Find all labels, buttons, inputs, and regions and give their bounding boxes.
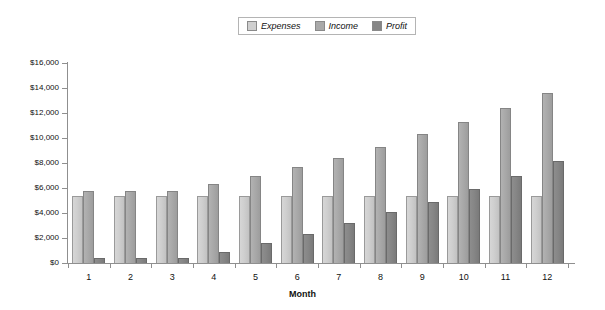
x-axis-tick-label: 2 [110, 272, 152, 282]
bar-expenses-month-12 [531, 196, 542, 264]
x-axis-tick [526, 263, 527, 268]
bar-group-month-11 [485, 63, 527, 263]
x-axis-tick [193, 263, 194, 268]
x-axis-tick [235, 263, 236, 268]
y-axis-tick-label: $10,000 [30, 134, 59, 142]
bar-expenses-month-4 [197, 196, 208, 264]
bar-profit-month-8 [386, 212, 397, 263]
y-axis-tick-label: $6,000 [35, 184, 59, 192]
bar-profit-month-4 [219, 252, 230, 263]
x-axis-tick [401, 263, 402, 268]
y-axis-tick-label: $0 [50, 259, 59, 267]
bar-expenses-month-1 [72, 196, 83, 264]
y-axis-tick [62, 188, 67, 189]
x-axis-tick [68, 263, 69, 268]
y-axis-tick [62, 138, 67, 139]
bar-expenses-month-6 [281, 196, 292, 264]
bar-expenses-month-11 [489, 196, 500, 264]
bar-expenses-month-3 [156, 196, 167, 264]
bar-income-month-7 [333, 158, 344, 263]
bar-expenses-month-9 [406, 196, 417, 264]
x-axis-tick [568, 263, 569, 268]
x-axis-tick [360, 263, 361, 268]
y-axis-tick-label: $4,000 [35, 209, 59, 217]
plot-area: $0$2,000$4,000$6,000$8,000$10,000$12,000… [0, 0, 605, 310]
bar-groups [68, 63, 568, 263]
bar-group-month-1 [68, 63, 110, 263]
x-axis-tick [110, 263, 111, 268]
bar-profit-month-3 [178, 258, 189, 263]
bar-group-month-12 [526, 63, 568, 263]
y-axis-tick [62, 213, 67, 214]
bar-profit-month-2 [136, 258, 147, 263]
bar-income-month-1 [83, 191, 94, 264]
y-axis-tick [62, 63, 67, 64]
bar-profit-month-7 [344, 223, 355, 263]
bar-profit-month-5 [261, 243, 272, 263]
bar-profit-month-1 [94, 258, 105, 263]
bar-group-month-2 [110, 63, 152, 263]
bar-profit-month-11 [511, 176, 522, 264]
bar-group-month-7 [318, 63, 360, 263]
bar-group-month-5 [235, 63, 277, 263]
bar-profit-month-12 [553, 161, 564, 264]
y-axis-tick-label: $8,000 [35, 159, 59, 167]
x-axis-tick-label: 4 [193, 272, 235, 282]
bar-income-month-6 [292, 167, 303, 263]
bar-expenses-month-7 [322, 196, 333, 264]
bar-income-month-12 [542, 93, 553, 263]
bar-expenses-month-5 [239, 196, 250, 264]
y-axis-tick-label: $12,000 [30, 109, 59, 117]
x-axis-tick [151, 263, 152, 268]
x-axis-tick [276, 263, 277, 268]
y-axis-tick-label: $2,000 [35, 234, 59, 242]
x-axis-tick [485, 263, 486, 268]
x-axis-tick [318, 263, 319, 268]
bar-income-month-2 [125, 191, 136, 264]
bar-expenses-month-10 [447, 196, 458, 264]
y-axis-tick [62, 263, 67, 264]
bar-group-month-3 [151, 63, 193, 263]
x-axis-title: Month [0, 289, 605, 299]
x-axis-tick-label: 6 [276, 272, 318, 282]
bar-profit-month-10 [469, 189, 480, 263]
bar-profit-month-9 [428, 202, 439, 263]
bar-group-month-8 [360, 63, 402, 263]
y-axis-tick [62, 113, 67, 114]
x-axis-tick-label: 1 [68, 272, 110, 282]
y-axis-tick-label: $14,000 [30, 84, 59, 92]
x-axis-tick-label: 11 [485, 272, 527, 282]
x-axis-tick-label: 9 [401, 272, 443, 282]
bar-group-month-4 [193, 63, 235, 263]
x-axis-tick-label: 8 [360, 272, 402, 282]
y-axis-tick [62, 238, 67, 239]
bar-income-month-11 [500, 108, 511, 263]
bar-group-month-10 [443, 63, 485, 263]
y-axis-tick-label: $16,000 [30, 59, 59, 67]
bar-group-month-6 [276, 63, 318, 263]
x-axis-tick-label: 12 [526, 272, 568, 282]
bar-income-month-5 [250, 176, 261, 264]
y-axis-tick [62, 88, 67, 89]
bar-group-month-9 [401, 63, 443, 263]
bar-income-month-9 [417, 134, 428, 263]
x-axis-tick-label: 5 [235, 272, 277, 282]
bar-expenses-month-8 [364, 196, 375, 264]
bar-income-month-8 [375, 147, 386, 263]
bar-chart: ExpensesIncomeProfit $0$2,000$4,000$6,00… [0, 0, 605, 310]
bar-income-month-4 [208, 184, 219, 263]
y-axis-labels: $0$2,000$4,000$6,000$8,000$10,000$12,000… [0, 0, 59, 310]
x-axis-tick-label: 10 [443, 272, 485, 282]
bar-income-month-10 [458, 122, 469, 263]
y-axis-tick [62, 163, 67, 164]
bar-expenses-month-2 [114, 196, 125, 264]
x-axis-tick-label: 3 [151, 272, 193, 282]
x-axis-tick [443, 263, 444, 268]
x-axis-line [67, 263, 575, 264]
bar-income-month-3 [167, 191, 178, 264]
bar-profit-month-6 [303, 234, 314, 263]
x-axis-tick-label: 7 [318, 272, 360, 282]
